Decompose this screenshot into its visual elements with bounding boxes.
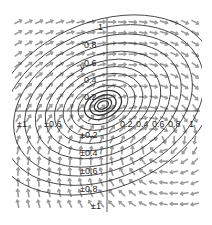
- field-arrow: [182, 147, 187, 154]
- field-arrow: [119, 190, 125, 196]
- y-tick-label: ±0.6: [80, 166, 97, 176]
- field-arrow: [160, 149, 167, 153]
- field-arrow: [170, 202, 178, 206]
- field-arrow: [181, 202, 189, 206]
- field-arrow: [57, 200, 61, 207]
- field-arrow: [16, 168, 20, 176]
- field-arrow: [37, 168, 41, 176]
- field-arrow: [118, 42, 126, 46]
- field-arrow: [181, 20, 188, 24]
- field-arrow: [56, 52, 63, 56]
- field-arrow: [97, 63, 105, 66]
- field-arrow: [66, 52, 73, 56]
- field-arrow: [110, 157, 114, 165]
- field-arrow: [16, 189, 20, 197]
- x-tick-label: ±1: [17, 119, 27, 129]
- field-arrow: [15, 52, 22, 57]
- field-arrow: [48, 136, 52, 143]
- field-arrow: [25, 73, 31, 78]
- field-arrow: [192, 41, 199, 45]
- field-arrow: [77, 73, 84, 77]
- field-arrow: [88, 105, 94, 110]
- field-arrow: [108, 31, 116, 35]
- x-tick-label: 0.6: [152, 119, 165, 129]
- trajectory-curve: [0, 6, 212, 203]
- field-arrow: [37, 157, 41, 165]
- field-arrow: [68, 190, 71, 198]
- field-arrow: [192, 63, 199, 68]
- field-arrow: [108, 63, 116, 67]
- field-arrow: [27, 179, 31, 187]
- field-arrow: [181, 73, 188, 77]
- field-arrow: [68, 168, 72, 176]
- field-arrow: [15, 41, 22, 45]
- field-arrow: [27, 125, 31, 132]
- field-arrow: [160, 181, 168, 185]
- field-arrow: [171, 95, 178, 99]
- phase-portrait-chart: ±1 ±0.6 0.2 0.4 0.6 0.8 1 1 0.8 0.6 0.4 …: [0, 0, 212, 225]
- field-arrow: [191, 20, 198, 24]
- x-tick-label: 0.4: [136, 119, 149, 129]
- field-arrow: [193, 147, 197, 154]
- field-arrow: [129, 20, 137, 24]
- field-arrow: [68, 157, 72, 165]
- field-arrow: [68, 200, 72, 207]
- field-arrow: [120, 168, 124, 175]
- field-arrow: [99, 190, 103, 197]
- field-arrow: [14, 30, 21, 34]
- field-arrow: [108, 20, 116, 24]
- field-arrow: [149, 21, 157, 25]
- field-arrow: [46, 30, 53, 34]
- field-arrow: [16, 157, 20, 165]
- field-arrow: [119, 201, 125, 206]
- field-arrow: [99, 157, 103, 165]
- field-arrow: [57, 105, 62, 111]
- field-arrow: [15, 73, 21, 78]
- field-arrow: [57, 189, 60, 197]
- field-arrow: [37, 200, 40, 208]
- field-arrow: [172, 136, 176, 144]
- field-arrow: [87, 52, 95, 55]
- y-tick-label: 0.2: [84, 92, 97, 102]
- field-arrow: [149, 53, 157, 57]
- field-arrow: [150, 202, 158, 205]
- field-arrow: [183, 136, 187, 144]
- field-arrow: [140, 158, 145, 164]
- field-arrow: [193, 125, 197, 133]
- field-arrow: [139, 20, 147, 24]
- field-arrow: [160, 170, 168, 174]
- field-arrow: [37, 179, 41, 187]
- y-tick-label: 0.4: [84, 75, 97, 85]
- field-arrow: [130, 180, 136, 185]
- y-axis-label: y: [80, 62, 85, 72]
- field-arrow: [26, 189, 30, 197]
- field-arrow: [16, 200, 20, 208]
- field-arrow: [162, 136, 166, 143]
- field-arrow: [26, 200, 29, 208]
- field-arrow: [192, 73, 198, 78]
- field-arrow: [129, 84, 137, 88]
- field-arrow: [160, 31, 168, 34]
- field-arrow: [170, 181, 178, 185]
- field-arrow: [129, 191, 135, 196]
- field-arrow: [100, 147, 104, 155]
- y-tick-label: ±0.8: [80, 184, 97, 194]
- field-arrow: [140, 169, 146, 174]
- field-arrow: [193, 104, 198, 111]
- field-arrow: [14, 20, 21, 24]
- field-arrow: [160, 21, 168, 24]
- field-arrow: [45, 20, 53, 24]
- field-arrow: [171, 148, 177, 154]
- field-arrow: [149, 95, 157, 99]
- field-arrow: [139, 191, 146, 195]
- field-arrow: [181, 181, 189, 184]
- trajectory-curves: [0, 0, 212, 225]
- field-arrow: [149, 42, 157, 46]
- field-arrow: [35, 41, 42, 45]
- trajectory-curve: [0, 0, 212, 225]
- field-arrow: [35, 52, 42, 56]
- y-tick-label: ±1: [91, 201, 101, 211]
- field-arrow: [109, 201, 115, 207]
- field-arrow: [140, 180, 147, 184]
- field-arrow: [46, 52, 53, 56]
